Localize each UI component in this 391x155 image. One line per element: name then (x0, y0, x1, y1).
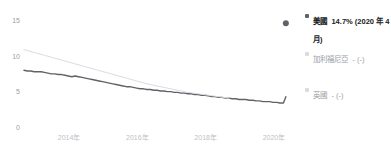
legend-color-swatch (305, 88, 309, 92)
legend-text-group: 英國 - (-) (313, 84, 391, 102)
legend-text-group: 美國 14.7% (2020 年 4 月) (313, 10, 391, 46)
legend-item-uk[interactable]: 英國 - (-) (305, 84, 391, 102)
highlighted-data-point[interactable] (283, 20, 289, 26)
chart-legend: 美國 14.7% (2020 年 4 月) 加利福尼亞 - (-) 英國 - (… (305, 0, 391, 155)
legend-text-group: 加利福尼亞 - (-) (313, 48, 391, 66)
chart-widget: 15 10 5 0 2014年 2016年 2018年 2020年 美國 14.… (0, 0, 391, 155)
legend-series-value: - (-) (352, 55, 364, 64)
line-chart-plot[interactable] (0, 0, 300, 155)
chart-panel: 15 10 5 0 2014年 2016年 2018年 2020年 (0, 0, 300, 155)
legend-color-swatch (305, 14, 309, 18)
legend-series-name: 英國 (313, 91, 327, 100)
series-line (24, 70, 286, 103)
legend-item-california[interactable]: 加利福尼亞 - (-) (305, 48, 391, 66)
legend-color-swatch (305, 52, 309, 56)
legend-item-us[interactable]: 美國 14.7% (2020 年 4 月) (305, 10, 391, 46)
legend-series-value: - (-) (331, 91, 343, 100)
legend-series-name: 加利福尼亞 (313, 55, 348, 64)
legend-series-name: 美國 (313, 17, 327, 26)
